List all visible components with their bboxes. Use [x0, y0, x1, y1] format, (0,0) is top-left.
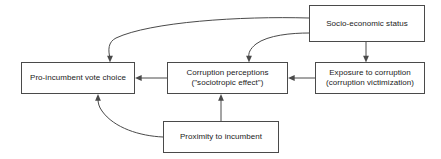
node-exposure-to-corruption[interactable]: Exposure to corruption (corruption victi…	[315, 62, 425, 94]
node-label-pro-incumbent-vote-choice: Pro-incumbent vote choice	[27, 73, 129, 83]
node-corruption-perceptions[interactable]: Corruption perceptions ("sociotropic eff…	[167, 62, 288, 94]
edge-ses-to-exposure	[363, 42, 369, 63]
node-pro-incumbent-vote-choice[interactable]: Pro-incumbent vote choice	[21, 62, 135, 94]
node-label-exposure-to-corruption: Exposure to corruption (corruption victi…	[323, 68, 417, 88]
node-proximity-to-incumbent[interactable]: Proximity to incumbent	[163, 121, 279, 153]
edge-proximity-to-vote-choice	[95, 94, 163, 137]
edge-proximity-to-corruption-perceptions	[218, 94, 224, 121]
node-label-socio-economic-status: Socio-economic status	[323, 19, 411, 29]
node-label-proximity-to-incumbent: Proximity to incumbent	[177, 132, 265, 142]
edge-ses-to-corruption-perceptions	[246, 33, 309, 63]
edge-exposure-to-corruption-perceptions	[288, 75, 315, 81]
edge-corruption-perceptions-to-vote-choice	[135, 75, 167, 81]
node-label-corruption-perceptions: Corruption perceptions ("sociotropic eff…	[183, 68, 271, 88]
node-socio-economic-status[interactable]: Socio-economic status	[309, 5, 425, 42]
edge-ses-to-vote-choice	[107, 18, 309, 63]
causal-diagram: Socio-economic status Exposure to corrup…	[0, 0, 441, 159]
